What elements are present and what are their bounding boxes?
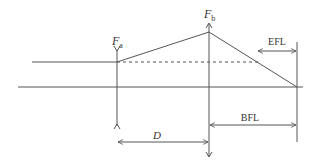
fa-bottom-arrow-icon bbox=[114, 124, 120, 129]
label-bfl: BFL bbox=[241, 112, 259, 123]
label-d: D bbox=[152, 129, 161, 141]
label-efl: EFL bbox=[268, 36, 286, 47]
lens-diagram: Fa Fb EFL BFL D bbox=[0, 0, 313, 161]
label-fa: Fa bbox=[111, 34, 123, 50]
label-fb: Fb bbox=[203, 7, 215, 23]
